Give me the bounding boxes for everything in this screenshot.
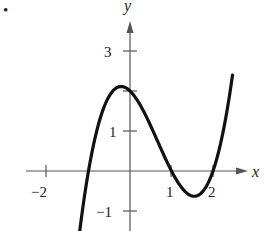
y-axis-arrow-icon xyxy=(127,21,134,33)
y-tick-label-1: 1 xyxy=(109,124,117,140)
x-tick-label-neg2: −2 xyxy=(31,184,47,200)
y-axis-label: y xyxy=(122,0,132,15)
x-tick-label-1: 1 xyxy=(166,184,174,200)
y-tick-label-3: 3 xyxy=(104,44,112,60)
cubic-function-graph: • x y −2 1 2 3 1 −1 xyxy=(0,0,265,231)
y-tick-label-neg1: −1 xyxy=(96,204,112,220)
x-axis-label: x xyxy=(251,163,259,180)
bullet-marker: • xyxy=(3,2,8,18)
x-tick-label-2: 2 xyxy=(208,184,216,200)
x-axis-arrow-icon xyxy=(236,168,248,175)
